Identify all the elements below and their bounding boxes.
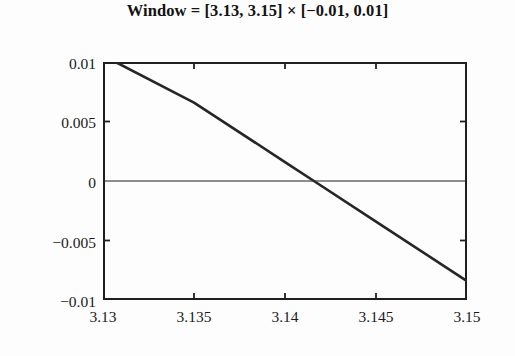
x-axis-tick-label: 3.13 <box>89 309 116 325</box>
x-axis-tick-label: 3.14 <box>271 309 298 325</box>
chart-figure: Window = [3.13, 3.15] × [−0.01, 0.01] 0.… <box>0 0 515 356</box>
plot-area <box>103 62 467 300</box>
x-axis-tick-label: 3.135 <box>177 309 212 325</box>
data-series <box>116 62 467 281</box>
x-axis-tick-label: 3.145 <box>359 309 394 325</box>
data-series-line <box>116 62 467 281</box>
x-axis-tick-label: 3.15 <box>453 309 480 325</box>
plot-svg <box>103 62 467 300</box>
